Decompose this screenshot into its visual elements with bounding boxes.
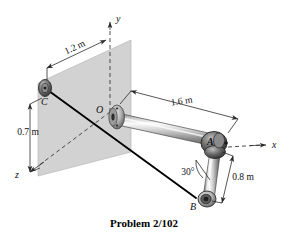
figure-caption: Problem 2/102 [110, 217, 178, 229]
point-label-B: B [190, 201, 196, 212]
z-axis-label: z [14, 169, 19, 180]
plate-height-label: 0.7 m [17, 127, 39, 137]
figure-canvas: y z x 1.2 m 0.7 m [0, 0, 289, 233]
joint-A: A [201, 132, 228, 159]
pipe-oa-label: 1.6 m [170, 94, 193, 107]
point-label-O: O [96, 104, 103, 115]
pipe-ab-label: 0.8 m [232, 172, 254, 182]
problem-figure: y z x 1.2 m 0.7 m [0, 0, 289, 233]
elbow-angle-label: 30° [181, 167, 195, 177]
x-axis-label: x [271, 139, 277, 150]
x-axis-arrow [250, 145, 266, 146]
dimension-elbow-angle: 30° [181, 160, 210, 180]
joint-B: B [190, 191, 216, 212]
plate-width-label: 1.2 m [63, 38, 87, 56]
point-label-C: C [41, 96, 48, 107]
point-label-A: A [206, 136, 214, 147]
y-axis-label: y [115, 13, 121, 24]
